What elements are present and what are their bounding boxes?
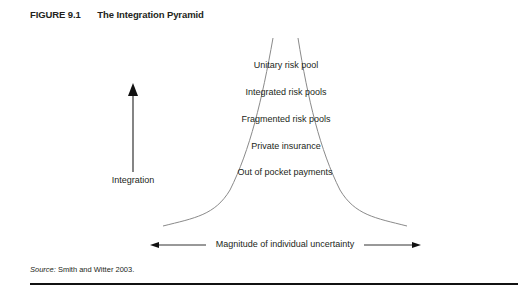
level-unitary-risk-pool: Unitary risk pool	[254, 60, 319, 70]
integration-arrow-icon	[128, 83, 138, 172]
uncertainty-right-arrow-icon	[364, 242, 421, 248]
integration-axis-label: Integration	[112, 175, 155, 185]
uncertainty-left-arrow-icon	[150, 242, 206, 248]
source-text: Smith and Witter 2003.	[56, 265, 134, 274]
level-integrated-risk-pools: Integrated risk pools	[245, 87, 326, 97]
level-out-of-pocket-payments: Out of pocket payments	[237, 167, 332, 177]
source-note: Source: Smith and Witter 2003.	[30, 265, 134, 274]
level-private-insurance: Private insurance	[251, 141, 321, 151]
uncertainty-axis-label: Magnitude of individual uncertainty	[216, 239, 355, 249]
bottom-rule	[30, 283, 518, 285]
level-fragmented-risk-pools: Fragmented risk pools	[241, 114, 330, 124]
source-prefix: Source:	[30, 265, 56, 274]
